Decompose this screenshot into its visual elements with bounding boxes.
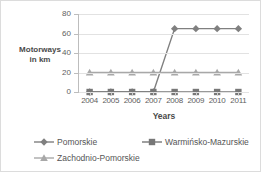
y-axis-tick-label: 80 — [47, 10, 71, 18]
y-axis-tick-label: 40 — [47, 49, 71, 57]
y-tick-mark — [74, 14, 79, 15]
data-point-marker — [149, 139, 155, 145]
x-axis-tick-label: 2011 — [225, 96, 251, 105]
x-tick-mark — [90, 92, 91, 96]
data-point-marker — [40, 138, 47, 145]
y-axis-tick-label: 0 — [47, 88, 71, 96]
gridline — [79, 53, 249, 54]
y-tick-mark — [74, 53, 79, 54]
x-axis-title: Years — [79, 111, 249, 121]
data-point-marker — [171, 25, 178, 32]
x-tick-mark — [175, 92, 176, 96]
y-tick-mark — [74, 34, 79, 35]
gridline — [79, 14, 249, 15]
legend-label: Zachodnio-Pomorskie — [57, 153, 140, 163]
x-tick-mark — [111, 92, 112, 96]
legend-item-warmi-sko-mazurskie[interactable]: Warmińsko-Mazurskie — [141, 137, 249, 147]
legend-swatch-diamond — [33, 137, 55, 147]
legend-swatch-triangle — [33, 153, 55, 163]
y-tick-mark — [74, 92, 79, 93]
legend-item-pomorskie[interactable]: Pomorskie — [33, 137, 97, 147]
legend-swatch-square — [141, 137, 163, 147]
x-tick-mark — [238, 92, 239, 96]
gridline — [79, 34, 249, 35]
series-line — [90, 29, 239, 92]
legend-label: Warmińsko-Mazurskie — [165, 137, 249, 147]
chart-legend: PomorskieWarmińsko-MazurskieZachodnio-Po… — [13, 137, 253, 169]
data-point-marker — [192, 25, 199, 32]
x-tick-mark — [132, 92, 133, 96]
data-point-marker — [213, 25, 220, 32]
y-axis-tick-label: 60 — [47, 30, 71, 38]
gridline — [79, 73, 249, 74]
legend-label: Pomorskie — [57, 137, 97, 147]
x-tick-mark — [196, 92, 197, 96]
x-tick-mark — [217, 92, 218, 96]
plot-area — [79, 14, 249, 92]
data-point-marker — [235, 25, 242, 32]
x-tick-mark — [153, 92, 154, 96]
gridline — [79, 92, 249, 93]
chart-figure: Motorways in km 020406080 Years Pomorski… — [0, 0, 261, 172]
series-0 — [86, 25, 242, 96]
y-tick-mark — [74, 73, 79, 74]
legend-item-zachodnio-pomorskie[interactable]: Zachodnio-Pomorskie — [33, 153, 140, 163]
y-axis-tick-label: 20 — [47, 69, 71, 77]
